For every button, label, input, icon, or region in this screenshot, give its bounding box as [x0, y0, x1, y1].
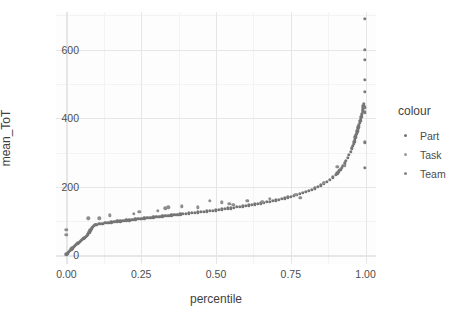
legend-item-team[interactable]: Team [398, 164, 460, 183]
data-point [246, 199, 249, 202]
legend-dot-icon [404, 134, 408, 138]
data-point [346, 156, 349, 159]
legend: colour PartTaskTeam [398, 104, 460, 183]
gridline-major-horizontal [56, 255, 376, 256]
gridline-major-horizontal [56, 50, 376, 51]
y-tick-label: 600 [61, 44, 79, 56]
data-point [228, 202, 231, 205]
data-point [220, 201, 223, 204]
data-point [347, 153, 350, 156]
data-point [87, 217, 90, 220]
x-tick-label: 0.50 [206, 268, 226, 280]
data-point [208, 199, 211, 202]
data-point [132, 212, 135, 215]
data-point [166, 206, 169, 209]
gridline-major-horizontal [56, 118, 376, 119]
legend-entries: PartTaskTeam [398, 126, 460, 183]
legend-key-swatch [398, 166, 413, 181]
legend-item-part[interactable]: Part [398, 126, 460, 145]
x-axis-title: percentile [56, 292, 376, 306]
data-point [344, 159, 347, 162]
data-point [98, 217, 101, 220]
legend-dot-icon [404, 153, 408, 157]
x-tick-label: 0.00 [56, 268, 76, 280]
data-point [328, 178, 331, 181]
legend-label: Task [420, 149, 442, 161]
legend-key-swatch [398, 147, 413, 162]
x-tick-label: 0.25 [131, 268, 151, 280]
y-tick-label: 0 [73, 249, 79, 261]
chart-root: 0200400600 0.000.250.500.751.00 percenti… [0, 0, 463, 321]
legend-dot-icon [404, 172, 408, 176]
data-point [180, 205, 183, 208]
data-point [65, 228, 68, 231]
y-tick-label: 200 [61, 181, 79, 193]
y-axis-title: mean_ToT [0, 110, 13, 167]
y-tick-label: 400 [61, 112, 79, 124]
data-point [156, 209, 159, 212]
data-point [343, 164, 346, 167]
legend-item-task[interactable]: Task [398, 145, 460, 164]
data-point [65, 233, 68, 236]
legend-label: Part [420, 130, 439, 142]
data-point [108, 214, 111, 217]
x-tick-label: 1.00 [355, 268, 375, 280]
legend-title: colour [398, 104, 460, 118]
plot-panel [56, 12, 376, 264]
data-point [322, 181, 325, 184]
legend-label: Team [420, 168, 446, 180]
x-tick-label: 0.75 [281, 268, 301, 280]
legend-key-swatch [398, 128, 413, 143]
data-point [299, 196, 302, 199]
gridline-major-horizontal [56, 187, 376, 188]
data-point [331, 176, 334, 179]
data-point [196, 206, 199, 209]
